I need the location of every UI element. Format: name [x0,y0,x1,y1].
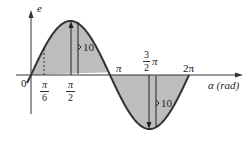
fraction-stack: 3 2 [143,50,150,73]
tick-denominator: 6 [42,93,47,103]
tick-label-pi-over-2: π 2 [66,80,75,103]
tick-label-three-halves-pi: 3 2 π [143,50,158,73]
tick-pi-symbol: π [152,56,158,67]
tick-label-two-pi: 2π [183,63,194,74]
tick-denominator: 2 [68,93,73,103]
tick-denominator: 2 [144,63,149,73]
sine-wave-chart [0,0,249,142]
x-axis-arrowhead-icon [235,73,243,78]
tick-numerator: π [42,80,47,90]
tick-numerator: π [68,80,73,90]
origin-label: 0 [21,78,27,89]
negative-amplitude-label: 10 [161,98,172,109]
tick-label-pi: π [116,63,122,74]
tick-label-pi-over-6: π 6 [40,80,49,103]
x-axis-label: α (rad) [208,80,239,91]
y-axis-label: e [37,3,42,14]
positive-amplitude-label: 10 [83,42,94,53]
tick-numerator: 3 [144,50,149,60]
y-axis-arrowhead-icon [29,10,34,18]
